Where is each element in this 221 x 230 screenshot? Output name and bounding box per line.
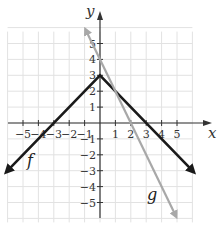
y-axis-arrow-icon (97, 11, 103, 20)
y-tick-label: 1 (89, 101, 96, 114)
x-tick-label: 5 (174, 128, 181, 141)
y-tick-label: −3 (80, 165, 96, 178)
x-axis-label: x (208, 124, 217, 142)
y-tick-label: −5 (80, 197, 96, 210)
function-graph: −5−4−3−2−112345−5−4−3−2−112345 x y f g (0, 0, 221, 230)
x-tick-label: −5 (15, 128, 31, 141)
x-tick-label: −2 (61, 128, 77, 141)
y-tick-label: −4 (80, 181, 96, 194)
y-axis-label: y (85, 2, 95, 20)
x-tick-label: 1 (112, 128, 119, 141)
x-tick-label: 3 (143, 128, 150, 141)
y-tick-label: 4 (89, 53, 96, 66)
y-tick-label: −1 (80, 133, 96, 146)
f-label: f (26, 151, 36, 170)
g-label: g (147, 185, 157, 204)
y-tick-label: −2 (80, 149, 96, 162)
